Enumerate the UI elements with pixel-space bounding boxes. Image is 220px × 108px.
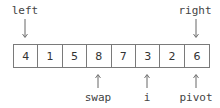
array-cell: 6 [185,45,209,67]
arrow-swap-up-icon [96,75,101,89]
array-cell: 5 [63,45,87,67]
array-box: 4 1 5 8 7 3 2 6 [13,44,210,68]
pointer-label-pivot: pivot [179,92,212,104]
arrow-left-down-icon [23,19,28,38]
pointer-label-i: i [144,92,151,104]
arrow-right-down-icon [194,19,199,38]
array-cell: 1 [38,45,62,67]
quicksort-partition-diagram: left right 4 1 5 [0,0,220,108]
array-cell: 3 [136,45,160,67]
array-cell: 2 [160,45,184,67]
arrow-i-up-icon [145,75,150,89]
array-cell: 8 [87,45,111,67]
array-cell: 4 [14,45,38,67]
pointer-label-swap: swap [85,92,112,104]
array-cell: 7 [112,45,136,67]
arrow-pivot-up-icon [194,75,199,89]
